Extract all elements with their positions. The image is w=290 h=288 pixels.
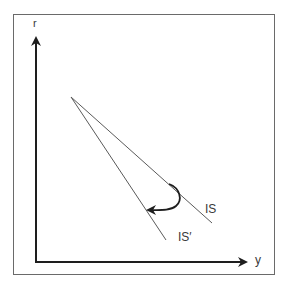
is-curve-diagram — [0, 0, 290, 288]
vertical-axis-label: r — [33, 18, 37, 29]
shift-arrow-icon — [148, 184, 180, 210]
is-prime-curve-label: IS′ — [178, 231, 192, 243]
horizontal-axis-label: y — [255, 254, 261, 266]
is-curve — [71, 97, 212, 223]
is-curve-label: IS — [205, 203, 216, 215]
